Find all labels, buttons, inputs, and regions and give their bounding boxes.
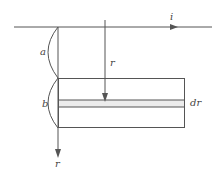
brace-a [48,27,58,78]
distance-a-label: a [40,46,46,57]
wire-loop-diagram: i r a b dr r [0,0,222,172]
r-axis-arrow-icon [55,149,61,158]
current-arrow-icon [170,24,178,30]
dr-strip [59,100,185,107]
radius-label: r [110,57,116,68]
width-b-label: b [42,98,48,109]
strip-label: dr [190,97,202,108]
current-label: i [170,11,173,22]
r-axis-label: r [55,158,61,169]
brace-b [48,78,58,128]
